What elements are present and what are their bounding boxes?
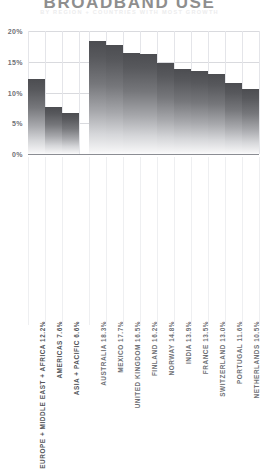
bar[interactable] <box>208 74 225 154</box>
bar-category-label: FRANCE 13.5% <box>203 321 209 374</box>
x-axis-line <box>28 154 259 155</box>
bar-category-label: UNITED KINGDOM 16.5% <box>135 321 141 408</box>
label-separator <box>242 157 243 325</box>
label-separator <box>89 157 90 325</box>
label-separator <box>140 157 141 325</box>
y-axis-tick-label: 10% <box>8 89 23 96</box>
bar[interactable] <box>242 89 259 154</box>
bar-category-label: NETHERLANDS 10.5% <box>254 321 260 399</box>
bar[interactable] <box>45 107 62 154</box>
label-separator <box>28 157 29 325</box>
bar[interactable] <box>174 69 191 154</box>
chart-subtitle: BY REGION + COUNTRIES WITH MOST GROWTH <box>0 9 259 15</box>
category-labels: EUROPE + MIDDLE EAST + AFRICA 12.2%AMERI… <box>28 157 259 325</box>
bar[interactable] <box>123 53 140 154</box>
y-axis-tick-label: 5% <box>12 120 23 127</box>
y-axis-tick-label: 15% <box>8 58 23 65</box>
gridline-vertical <box>259 31 260 154</box>
bar-category-label: AMERICAS 7.6% <box>57 321 63 379</box>
label-separator <box>62 157 63 325</box>
bar[interactable] <box>157 63 174 154</box>
bar[interactable] <box>225 83 242 154</box>
label-separator <box>106 157 107 325</box>
bar[interactable] <box>106 45 123 154</box>
bar-category-label: EUROPE + MIDDLE EAST + AFRICA 12.2% <box>40 321 46 469</box>
bar[interactable] <box>191 71 208 154</box>
y-axis-labels: 0%5%10%15%20% <box>0 31 26 154</box>
bar-category-label: SWITZERLAND 13.0% <box>220 321 226 397</box>
bar[interactable] <box>28 79 45 154</box>
label-separator <box>259 157 260 325</box>
plot-area <box>28 31 259 154</box>
label-separator <box>157 157 158 325</box>
bar-category-label: MEXICO 17.7% <box>118 321 124 373</box>
label-separator <box>208 157 209 325</box>
gridline-vertical <box>79 31 80 154</box>
bar-category-label: ASIA + PACIFIC 6.6% <box>74 321 80 395</box>
label-separator <box>174 157 175 325</box>
label-separator <box>191 157 192 325</box>
bar-category-label: PORTUGAL 11.6% <box>237 321 243 384</box>
y-axis-tick-label: 20% <box>8 28 23 35</box>
label-separator <box>225 157 226 325</box>
y-axis-tick-label: 0% <box>12 151 23 158</box>
bar-category-label: AUSTRALIA 18.3% <box>101 321 107 386</box>
bar[interactable] <box>62 113 79 154</box>
bar-category-label: FINLAND 16.2% <box>152 321 158 376</box>
bar[interactable] <box>89 41 106 154</box>
bar-category-label: INDIA 13.9% <box>186 321 192 364</box>
bar-category-label: NORWAY 14.8% <box>169 321 175 375</box>
label-separator <box>45 157 46 325</box>
bar[interactable] <box>140 54 157 154</box>
label-separator <box>123 157 124 325</box>
